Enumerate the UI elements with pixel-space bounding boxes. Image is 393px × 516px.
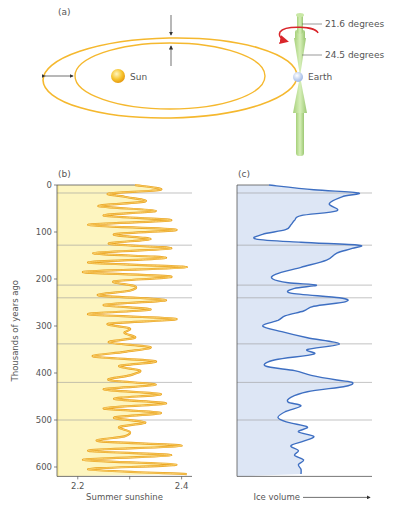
sun-label: Sun bbox=[130, 72, 147, 82]
y-axis-title: Thousands of years ago bbox=[10, 280, 20, 383]
panel-c: (c) Ice volume bbox=[237, 169, 372, 502]
panel-c-label: (c) bbox=[238, 169, 250, 179]
y-tick-label: 500 bbox=[36, 415, 52, 425]
x-axis-title: Ice volume bbox=[253, 492, 300, 502]
x-axis-title: Summer sunshine bbox=[86, 492, 163, 502]
y-tick-label: 400 bbox=[36, 368, 52, 378]
earth-axis-icon bbox=[293, 13, 307, 156]
sunshine-chart: 01002003004005006002.22.4Summer sunshine… bbox=[10, 180, 192, 502]
panel-b-label: (b) bbox=[58, 169, 71, 179]
tilt-max-label: 21.6 degrees bbox=[325, 19, 384, 29]
y-tick-label: 200 bbox=[36, 274, 52, 284]
earth-icon bbox=[293, 72, 303, 82]
orbit-outer bbox=[42, 36, 297, 120]
panel-a: (a) Sun Earth 21.6 degrees 24.5 degr bbox=[42, 7, 384, 156]
y-tick-label: 100 bbox=[36, 227, 52, 237]
ice-volume-chart: Ice volume bbox=[237, 185, 372, 502]
x-tick-label: 2.2 bbox=[71, 481, 85, 491]
milankovitch-figure: (a) Sun Earth 21.6 degrees 24.5 degr bbox=[0, 0, 393, 516]
earth-label: Earth bbox=[308, 72, 332, 82]
panel-b: (b) 01002003004005006002.22.4Summer suns… bbox=[10, 169, 192, 502]
sun-icon bbox=[111, 69, 125, 83]
tilt-min-label: 24.5 degrees bbox=[325, 50, 384, 60]
y-tick-label: 300 bbox=[36, 321, 52, 331]
y-tick-label: 0 bbox=[47, 180, 52, 190]
orbit-inner bbox=[75, 43, 265, 109]
x-tick-label: 2.4 bbox=[175, 481, 189, 491]
y-tick-label: 600 bbox=[36, 462, 52, 472]
panel-a-label: (a) bbox=[58, 7, 71, 17]
